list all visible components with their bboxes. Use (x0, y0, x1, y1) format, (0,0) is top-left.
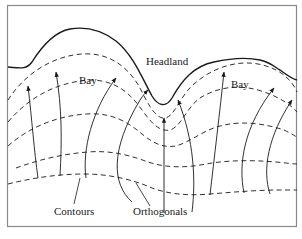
diagram-canvas: Headland Bay Bay Contours Orthogonals (0, 0, 302, 239)
label-bay-right: Bay (231, 78, 249, 90)
wave-refraction-figure: Headland Bay Bay Contours Orthogonals (0, 0, 302, 239)
leader-lines (74, 178, 150, 206)
contour-lines (8, 54, 297, 195)
label-contours: Contours (54, 205, 94, 217)
orthogonal-lines (28, 72, 292, 213)
label-headland: Headland (146, 55, 189, 67)
label-bay-left: Bay (79, 74, 97, 86)
label-orthogonals: Orthogonals (133, 205, 187, 217)
